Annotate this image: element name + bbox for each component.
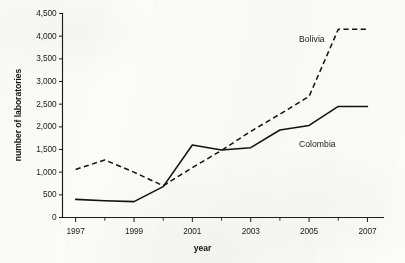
y-tick-label: 0 [0,212,57,222]
x-tick-label: 1997 [56,226,96,236]
y-tick-label: 4,000 [0,31,57,41]
x-tick-label: 1999 [114,226,154,236]
y-tick-label: 1,500 [0,144,57,154]
y-axis-title: number of laboratories [13,50,23,180]
series-label-bolivia: Bolivia [299,34,325,44]
y-tick-label: 2,500 [0,99,57,109]
x-axis-title: year [0,243,405,253]
series-line-colombia [76,106,368,201]
series-label-colombia: Colombia [299,139,336,149]
y-tick-label: 4,500 [0,8,57,18]
chart-axes [63,14,384,218]
line-chart-plot [0,0,405,263]
series-line-bolivia [76,29,368,185]
y-tick-label: 3,000 [0,76,57,86]
y-tick-label: 2,000 [0,121,57,131]
chart-series-lines [76,29,368,201]
x-tick-label: 2003 [231,226,271,236]
chart-screenshot: 05001,0001,5002,0002,5003,0003,5004,0004… [0,0,405,263]
y-tick-label: 500 [0,189,57,199]
y-tick-label: 3,500 [0,53,57,63]
x-tick-label: 2001 [172,226,212,236]
y-tick-label: 1,000 [0,167,57,177]
x-axis-ticks [76,218,368,223]
x-tick-label: 2005 [289,226,329,236]
x-tick-label: 2007 [347,226,387,236]
